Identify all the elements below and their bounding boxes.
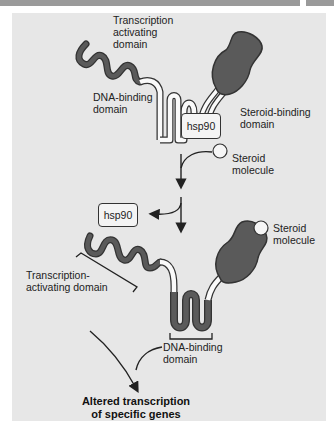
hsp90-box-released: hsp90 (98, 203, 138, 227)
hsp90-label-released: hsp90 (104, 209, 133, 221)
hsp90-label-bound: hsp90 (187, 120, 216, 132)
steroid-molecule-1 (213, 144, 227, 158)
dna-binding-domain-bottom (174, 292, 208, 328)
label-transcription-activating-domain-top: Transcription activating domain (113, 14, 173, 50)
label-steroid-molecule-1: Steroid molecule (232, 152, 274, 176)
label-outcome: Altered transcription of specific genes (74, 395, 198, 421)
label-dna-binding-domain-bottom: DNA-binding domain (163, 341, 223, 365)
label-dna-binding-domain-top: DNA-binding domain (93, 91, 153, 115)
bracket-dna-binding (170, 333, 212, 339)
hsp90-box-bound: hsp90 (181, 113, 221, 139)
steroid-molecule-2 (254, 221, 268, 235)
label-transcription-activating-domain-bottom: Transcription- activating domain (26, 269, 108, 293)
steroid-binding-domain-top (212, 32, 262, 95)
label-steroid-molecule-2: Steroid molecule (273, 222, 315, 246)
label-steroid-binding-domain: Steroid-binding domain (240, 106, 311, 130)
